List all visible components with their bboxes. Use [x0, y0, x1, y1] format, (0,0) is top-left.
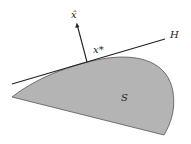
convex-set-S	[12, 57, 174, 135]
set-label: S	[121, 92, 128, 103]
hyperplane-label: H	[169, 29, 179, 40]
normal-vector-arrow	[78, 26, 88, 62]
arrowhead-icon	[75, 23, 79, 29]
point-label: x*	[93, 44, 104, 55]
supporting-hyperplane-diagram: x̂ x* H S	[0, 0, 191, 144]
diagram-canvas: x̂ x* H S	[0, 0, 191, 144]
normal-vector-label: x̂	[71, 9, 77, 20]
